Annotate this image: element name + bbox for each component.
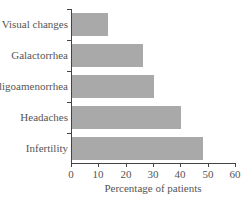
- x-tick-label: 0: [61, 168, 81, 180]
- x-axis-label: Percentage of patients: [71, 182, 235, 194]
- category-label: Headaches: [20, 111, 68, 123]
- x-tick-label: 60: [225, 168, 245, 180]
- y-tick: [67, 133, 71, 134]
- y-tick: [67, 9, 71, 10]
- x-tick: [71, 163, 72, 167]
- bar-chart: Visual changes Galactorrhea Oligoamenorr…: [0, 0, 246, 204]
- x-tick-label: 20: [116, 168, 136, 180]
- bar-infertility: [72, 137, 203, 160]
- y-tick: [67, 102, 71, 103]
- category-label: Infertility: [26, 142, 68, 154]
- x-tick: [208, 163, 209, 167]
- category-label: Oligoamenorrhea: [0, 80, 68, 92]
- x-tick: [98, 163, 99, 167]
- x-tick: [126, 163, 127, 167]
- x-tick: [235, 163, 236, 167]
- x-tick-label: 50: [198, 168, 218, 180]
- x-tick-label: 30: [143, 168, 163, 180]
- category-label: Visual changes: [2, 18, 68, 30]
- bar-visual-changes: [72, 13, 108, 36]
- y-tick: [67, 71, 71, 72]
- bar-oligoamenorrhea: [72, 75, 154, 98]
- y-tick: [67, 40, 71, 41]
- x-tick: [180, 163, 181, 167]
- bar-headaches: [72, 106, 181, 129]
- bar-galactorrhea: [72, 44, 143, 67]
- x-tick-label: 10: [88, 168, 108, 180]
- x-tick-label: 40: [170, 168, 190, 180]
- category-label: Galactorrhea: [11, 49, 68, 61]
- x-tick: [153, 163, 154, 167]
